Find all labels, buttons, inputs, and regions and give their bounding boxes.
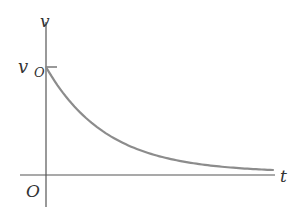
origin-label: O xyxy=(26,181,40,201)
x-axis-label: t xyxy=(280,166,287,186)
y-axis-label: v xyxy=(40,11,50,31)
initial-value-label: v O xyxy=(18,56,45,80)
velocity-decay-diagram: v t O v O xyxy=(0,0,290,214)
decay-curve xyxy=(46,67,273,170)
initial-value-label-main: v xyxy=(18,56,28,77)
initial-value-label-subscript: O xyxy=(34,65,45,80)
